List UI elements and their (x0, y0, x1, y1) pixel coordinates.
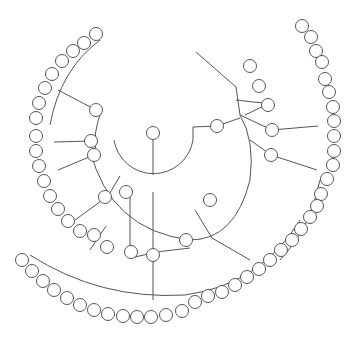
tree-node-n-low-mid (180, 234, 193, 247)
tree-node-leaf-b-9 (37, 275, 50, 288)
tree-node-n-left-low-a (99, 191, 112, 204)
tree-node-leaf-b-10 (26, 265, 39, 278)
tree-node-leaf-r-7 (275, 244, 288, 257)
tree-node-n-low-left-a (125, 246, 138, 259)
tree-nodes (16, 20, 341, 324)
tree-edge (195, 210, 212, 238)
radial-tree-diagram (0, 0, 361, 337)
tree-node-leaf-b-2 (131, 311, 144, 324)
tree-node-leaf-r-11 (229, 279, 242, 292)
tree-node-leaf-l-2 (30, 145, 43, 158)
tree-node-leaf-tr-9 (328, 130, 341, 143)
tree-node-leaf-tr-2 (305, 31, 318, 44)
tree-node-leaf-tr-7 (327, 101, 340, 114)
tree-node-n-right-c (262, 99, 275, 112)
tree-node-leaf-r-15 (176, 305, 189, 318)
tree-node-leaf-b-6 (74, 299, 87, 312)
tree-node-leaf-tr-4 (316, 56, 329, 69)
tree-node-n-right-a (244, 60, 257, 73)
lower-arc (130, 248, 190, 258)
tree-node-leaf-l-4 (38, 175, 51, 188)
tree-node-leaf-b-7 (61, 292, 74, 305)
tree-edge (196, 52, 212, 66)
tree-node-leaf-r-5 (295, 223, 308, 236)
main-arc (90, 115, 251, 240)
tree-edge (212, 66, 236, 87)
tree-node-leaf-b-11 (16, 254, 29, 267)
tree-node-leaf-b-5 (88, 304, 101, 317)
tree-node-leaf-r-4 (304, 211, 317, 224)
tree-node-leaf-tl-2 (78, 37, 91, 50)
tree-node-leaf-l-8 (74, 225, 87, 238)
tree-node-leaf-tr-11 (327, 159, 340, 172)
tree-edges (54, 52, 318, 300)
tree-node-root-leaf (147, 127, 160, 140)
tree-node-leaf-r-14 (189, 296, 202, 309)
tree-node-n-left-mid-b (88, 149, 101, 162)
tree-node-leaf-l-3 (33, 160, 46, 173)
tree-node-leaf-tl-6 (39, 82, 52, 95)
tree-node-leaf-r-9 (253, 263, 266, 276)
tree-node-leaf-tr-8 (328, 115, 341, 128)
tree-node-leaf-l-6 (52, 203, 65, 216)
tree-node-n-low-right (204, 194, 217, 207)
tree-node-leaf-l-5 (44, 190, 57, 203)
tree-node-leaf-r-8 (264, 254, 277, 267)
tree-node-leaf-l-10 (101, 241, 114, 254)
tree-node-n-right-b (253, 80, 266, 93)
tree-node-leaf-l-1 (30, 130, 43, 143)
tree-node-n-top-right-1 (211, 120, 224, 133)
tree-node-leaf-tl-1 (90, 28, 103, 41)
tree-node-leaf-l-9 (88, 229, 101, 242)
tree-node-leaf-b-8 (48, 284, 61, 297)
tree-node-leaf-tr-1 (296, 20, 309, 33)
tree-node-leaf-r-1 (321, 173, 334, 186)
tree-node-leaf-r-2 (315, 188, 328, 201)
tree-node-leaf-r-16 (160, 309, 173, 322)
tree-node-leaf-b-4 (102, 308, 115, 321)
tree-node-n-left-low-b (120, 186, 133, 199)
tree-node-leaf-r-12 (216, 286, 229, 299)
tree-node-leaf-tl-7 (33, 97, 46, 110)
tree-node-leaf-tl-5 (46, 68, 59, 81)
tree-node-leaf-tl-3 (67, 45, 80, 58)
tree-node-n-right-e (265, 149, 278, 162)
tree-edge (271, 155, 317, 170)
tree-node-leaf-r-6 (286, 234, 299, 247)
tree-node-leaf-tr-10 (328, 145, 341, 158)
tree-node-leaf-tl-4 (56, 55, 69, 68)
tree-node-n-low-left-b (147, 249, 160, 262)
tree-node-leaf-tr-6 (323, 86, 336, 99)
tree-node-leaf-r-13 (202, 290, 215, 303)
tree-node-leaf-tr-5 (319, 73, 332, 86)
tree-node-leaf-tl-8 (30, 112, 43, 125)
tree-edge (236, 87, 240, 115)
tree-node-n-left-mid-a (85, 135, 98, 148)
tree-node-leaf-r-10 (241, 271, 254, 284)
tree-node-leaf-l-7 (62, 215, 75, 228)
tree-arcs (30, 40, 320, 296)
tree-node-n-left-hub (90, 104, 103, 117)
tree-edge (212, 238, 250, 260)
outer-bottom-arc (30, 220, 300, 296)
tree-node-leaf-b-3 (117, 310, 130, 323)
tree-node-n-right-d (266, 124, 279, 137)
tree-node-leaf-b-1 (145, 311, 158, 324)
